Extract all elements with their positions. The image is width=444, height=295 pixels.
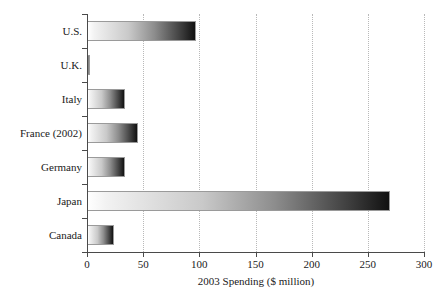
y-axis-tick (82, 82, 87, 83)
plot-area (87, 14, 424, 252)
x-axis-label-100: 100 (179, 258, 219, 271)
y-axis-tick (82, 48, 87, 49)
y-axis-tick (82, 218, 87, 219)
x-axis-label-50: 50 (123, 258, 163, 271)
bar-canada (87, 225, 114, 245)
bar-row (87, 116, 424, 150)
bar-row (87, 48, 424, 82)
y-axis-label-u-s: U.S. (0, 25, 82, 37)
y-axis-tick (82, 116, 87, 117)
y-axis-label-u-k: U.K. (0, 59, 82, 71)
x-axis-label-0: 0 (67, 258, 107, 271)
bar-italy (87, 89, 125, 109)
x-axis-label-300: 300 (404, 258, 444, 271)
bar-row (87, 14, 424, 48)
bar-japan (87, 191, 390, 211)
y-axis-tick (82, 150, 87, 151)
y-axis-tick (82, 184, 87, 185)
x-axis-tick (87, 252, 88, 257)
y-axis-label-germany: Germany (0, 161, 82, 173)
x-axis-label-150: 150 (236, 258, 276, 271)
x-axis-tick (143, 252, 144, 257)
y-axis-label-france-2002: France (2002) (0, 127, 82, 139)
y-axis-label-italy: Italy (0, 93, 82, 105)
bar-row (87, 82, 424, 116)
x-axis-tick (256, 252, 257, 257)
x-axis-tick (312, 252, 313, 257)
x-axis-label-250: 250 (348, 258, 388, 271)
x-axis-label-200: 200 (292, 258, 332, 271)
y-axis-line (87, 14, 88, 253)
y-axis-label-japan: Japan (0, 195, 82, 207)
y-axis-label-canada: Canada (0, 229, 82, 241)
bar-u-s (87, 21, 196, 41)
bar-row (87, 218, 424, 252)
bar-row (87, 184, 424, 218)
x-axis-title: 2003 Spending ($ million) (87, 275, 425, 288)
bar-germany (87, 157, 125, 177)
y-axis-tick (82, 14, 87, 15)
x-axis-tick (368, 252, 369, 257)
x-axis-tick (199, 252, 200, 257)
x-axis-tick (424, 252, 425, 257)
bar-row (87, 150, 424, 184)
gridline (424, 14, 425, 252)
bar-france-2002 (87, 123, 138, 143)
bar-chart: U.S.U.K.ItalyFrance (2002)GermanyJapanCa… (0, 0, 444, 295)
